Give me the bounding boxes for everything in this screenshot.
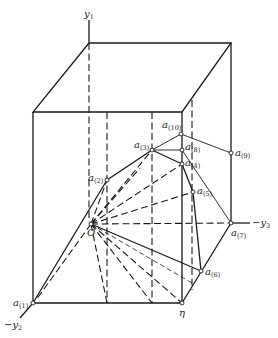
point-a5 [191, 190, 195, 194]
point-a7 [229, 221, 233, 225]
point-a8 [180, 148, 184, 152]
point-a6 [199, 269, 203, 273]
label-a6: a(6) [205, 266, 221, 279]
label-a5: a(5) [197, 185, 213, 198]
y3-label: −y3 [252, 217, 270, 230]
rays-from-origin [91, 150, 193, 303]
label-a1: a(1) [13, 297, 29, 310]
eta-label: η [179, 307, 185, 318]
label-a7: a(7) [231, 227, 247, 240]
label-a10: a(10) [162, 119, 182, 132]
y2-axis [20, 224, 91, 318]
point-a3 [150, 148, 154, 152]
point-a1 [31, 301, 35, 305]
point-origin [89, 222, 93, 226]
label-a9: a(9) [235, 147, 251, 160]
point-eta [180, 301, 184, 305]
point-a4 [180, 162, 184, 166]
label-a4: a(4) [185, 157, 201, 170]
label-a8: a(8) [185, 141, 201, 154]
point-a9 [229, 151, 233, 155]
label-a2: a(2) [88, 172, 104, 185]
label-a3: a(3) [134, 139, 150, 152]
y1-label: y1 [83, 8, 94, 21]
point-a2 [105, 178, 109, 182]
y2-label: −y2 [4, 319, 22, 332]
polyhedron-diagram: y1 −y2 −y3 O η a(1) a(2) a(3) a(4) a(5) … [0, 0, 278, 338]
vertex-points [31, 132, 233, 305]
origin-label: O [87, 227, 95, 238]
y3-axis [91, 223, 250, 224]
point-a10 [179, 132, 183, 136]
